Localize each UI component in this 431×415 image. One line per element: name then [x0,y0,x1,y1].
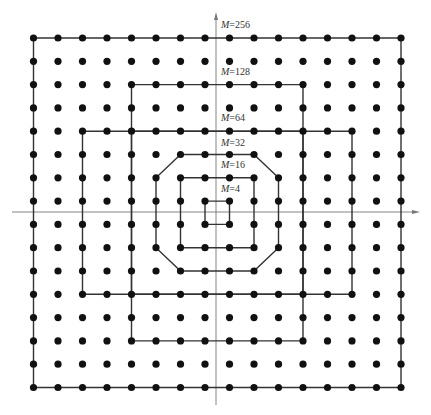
constellation-point [226,291,233,298]
constellation-point [299,221,306,228]
constellation-point [128,221,135,228]
constellation-point [250,104,257,111]
constellation-point [30,244,37,251]
constellation-point [54,198,61,205]
constellation-point [152,128,159,135]
constellation-point [30,58,37,65]
constellation-point [177,81,184,88]
constellation-point [397,174,404,181]
constellation-point [373,151,380,158]
constellation-point [201,104,208,111]
constellation-points [30,34,405,391]
constellation-point [201,291,208,298]
constellation-point [54,104,61,111]
constellation-point [250,128,257,135]
constellation-point [152,198,159,205]
constellation-point [348,58,355,65]
constellation-point [250,361,257,368]
constellation-point [201,221,208,228]
constellation-point [226,174,233,181]
constellation-point [103,244,110,251]
constellation-point [299,384,306,391]
constellation-point [30,221,37,228]
constellation-point [128,361,135,368]
constellation-point [79,384,86,391]
constellation-point [30,337,37,344]
constellation-point [201,337,208,344]
constellation-point [79,174,86,181]
constellation-point [250,151,257,158]
constellation-point [54,58,61,65]
constellation-point [54,384,61,391]
constellation-point [152,361,159,368]
constellation-point [103,81,110,88]
constellation-point [152,221,159,228]
constellation-point [275,58,282,65]
constellation-point [30,267,37,274]
constellation-point [103,34,110,41]
constellation-point [324,34,331,41]
constellation-point [373,244,380,251]
constellation-point [226,267,233,274]
constellation-point [201,151,208,158]
constellation-point [103,384,110,391]
constellation-point [226,81,233,88]
constellation-point [275,151,282,158]
constellation-point [103,128,110,135]
order-labels: M=4M=16M=32M=64M=128M=256 [220,19,250,194]
constellation-point [201,81,208,88]
constellation-point [128,174,135,181]
constellation-point [128,337,135,344]
constellation-point [299,174,306,181]
constellation-point [177,384,184,391]
constellation-point [397,221,404,228]
constellation-point [348,314,355,321]
constellation-point [373,58,380,65]
constellation-point [103,337,110,344]
constellation-point [226,244,233,251]
constellation-point [30,384,37,391]
constellation-point [348,128,355,135]
constellation-point [226,384,233,391]
constellation-point [397,34,404,41]
constellation-point [373,221,380,228]
constellation-point [226,361,233,368]
constellation-point [275,174,282,181]
constellation-point [128,291,135,298]
constellation-point [324,58,331,65]
constellation-point [201,244,208,251]
constellation-point [226,34,233,41]
constellation-point [79,104,86,111]
constellation-point [226,58,233,65]
constellation-point [79,221,86,228]
constellation-point [299,361,306,368]
constellation-point [275,81,282,88]
constellation-point [299,337,306,344]
constellation-point [397,198,404,205]
label-m128: M=128 [220,66,250,77]
constellation-point [250,81,257,88]
constellation-point [324,221,331,228]
constellation-point [177,58,184,65]
constellation-point [152,337,159,344]
constellation-point [348,244,355,251]
constellation-point [275,221,282,228]
constellation-point [30,151,37,158]
constellation-point [324,104,331,111]
constellation-point [54,151,61,158]
constellation-point [397,81,404,88]
constellation-point [226,337,233,344]
constellation-point [128,81,135,88]
constellation-point [54,267,61,274]
constellation-point [152,384,159,391]
constellation-point [201,58,208,65]
constellation-point [373,174,380,181]
constellation-point [30,104,37,111]
constellation-point [348,151,355,158]
constellation-point [103,174,110,181]
constellation-point [373,104,380,111]
constellation-point [250,174,257,181]
constellation-point [348,198,355,205]
constellation-point [226,221,233,228]
constellation-point [177,337,184,344]
